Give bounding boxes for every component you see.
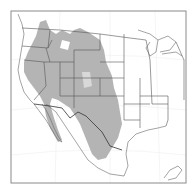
- range-map: [0, 0, 196, 189]
